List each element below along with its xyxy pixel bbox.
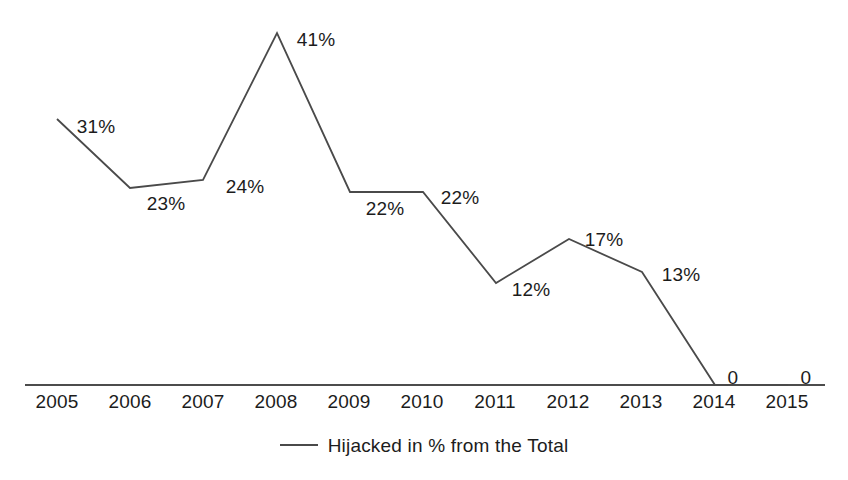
x-tick-label-2015: 2015	[765, 392, 808, 411]
x-tick-label-2009: 2009	[327, 392, 370, 411]
x-tick-label-2014: 2014	[692, 392, 735, 411]
value-label-2012: 17%	[585, 230, 624, 249]
x-tick-label-2011: 2011	[474, 392, 516, 411]
value-label-2015: 0	[801, 368, 812, 387]
x-tick-label-2013: 2013	[619, 392, 662, 411]
x-tick-label-2008: 2008	[254, 392, 297, 411]
legend-label-hijacked: Hijacked in % from the Total	[328, 436, 569, 455]
value-label-2013: 13%	[662, 265, 701, 284]
value-label-2006: 23%	[147, 194, 186, 213]
line-chart: 31%23%24%41%22%22%12%17%13%00 2005200620…	[0, 0, 848, 480]
value-label-2014: 0	[728, 368, 739, 387]
x-tick-label-2012: 2012	[546, 392, 589, 411]
value-label-2011: 12%	[512, 280, 551, 299]
value-label-2005: 31%	[77, 117, 116, 136]
chart-legend: Hijacked in % from the Total	[0, 430, 848, 460]
value-label-2010: 22%	[441, 188, 480, 207]
x-tick-label-2006: 2006	[108, 392, 151, 411]
value-label-2009: 22%	[366, 199, 405, 218]
x-tick-label-2005: 2005	[35, 392, 78, 411]
legend-line-swatch	[280, 438, 318, 452]
x-tick-label-2007: 2007	[181, 392, 224, 411]
value-label-2008: 41%	[297, 30, 336, 49]
x-tick-label-2010: 2010	[400, 392, 443, 411]
value-label-2007: 24%	[226, 177, 265, 196]
